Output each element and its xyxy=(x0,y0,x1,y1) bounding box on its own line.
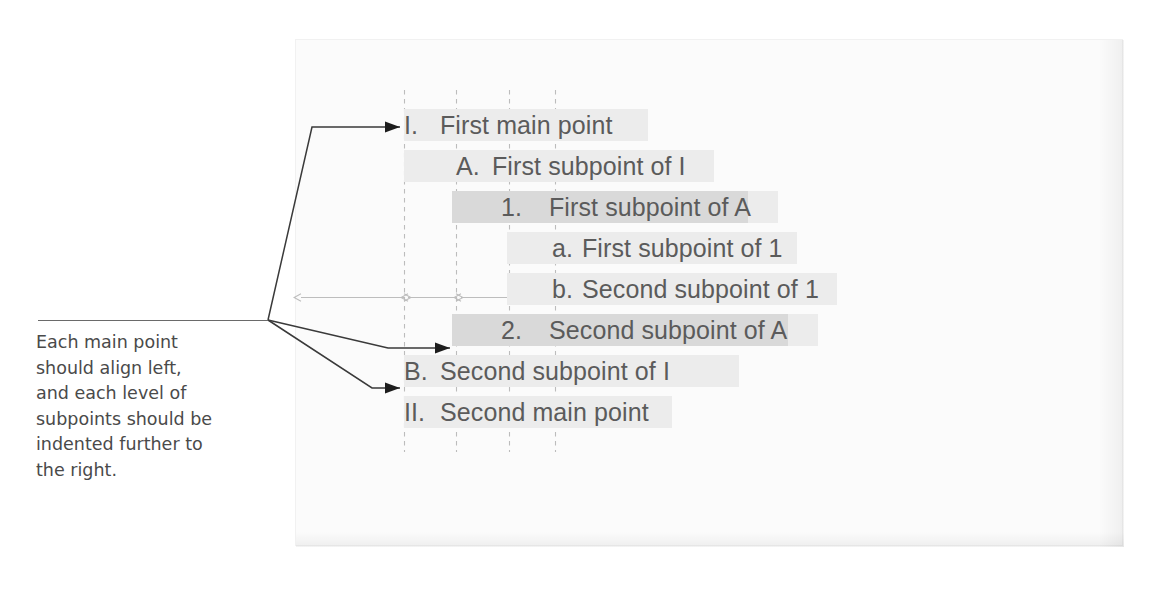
outline-marker: 2. xyxy=(501,313,549,347)
outline-text: First subpoint of 1 xyxy=(582,234,783,262)
row-highlight-band-tail xyxy=(748,191,778,223)
caption-line: the right. xyxy=(36,458,276,484)
caption-line: subpoints should be xyxy=(36,407,276,433)
outline-text: Second subpoint of A xyxy=(549,316,787,344)
outline-marker: 1. xyxy=(501,190,549,224)
caption-rule xyxy=(38,320,268,321)
outline-text: First subpoint of A xyxy=(549,193,751,221)
outline-text: First main point xyxy=(440,111,613,139)
outline-marker: B. xyxy=(404,354,440,388)
outline-marker: II. xyxy=(404,395,440,429)
caption-block: Each main point should align left, and e… xyxy=(36,330,276,483)
outline-text: Second subpoint of I xyxy=(440,357,670,385)
outline-row: I.First main point xyxy=(404,108,613,142)
outline-row: b.Second subpoint of 1 xyxy=(404,272,819,306)
outline-text: First subpoint of I xyxy=(492,152,686,180)
caption-line: Each main point xyxy=(36,330,276,356)
outline-row: A.First subpoint of I xyxy=(404,149,686,183)
outline-text: Second main point xyxy=(440,398,649,426)
outline-marker: A. xyxy=(456,149,492,183)
outline-text: Second subpoint of 1 xyxy=(582,275,819,303)
outline-row: II.Second main point xyxy=(404,395,649,429)
outline-marker: b. xyxy=(552,272,582,306)
caption-line: should align left, xyxy=(36,356,276,382)
outline-row: a.First subpoint of 1 xyxy=(404,231,783,265)
caption-line: and each level of xyxy=(36,381,276,407)
outline-marker: a. xyxy=(552,231,582,265)
outline-row: 1.First subpoint of A xyxy=(404,190,751,224)
outline-row: 2.Second subpoint of A xyxy=(404,313,787,347)
outline-marker: I. xyxy=(404,108,440,142)
caption-line: indented further to xyxy=(36,432,276,458)
row-highlight-band-tail xyxy=(788,314,818,346)
outline-row: B.Second subpoint of I xyxy=(404,354,670,388)
outline-list: I.First main point A.First subpoint of I… xyxy=(0,0,1163,613)
